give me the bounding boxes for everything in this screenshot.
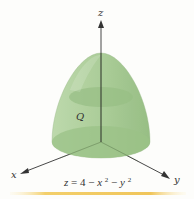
footer-strip [10, 192, 186, 195]
y-axis-arrow-icon [161, 171, 170, 179]
z-axis-arrow-icon [98, 20, 104, 28]
region-label: Q [76, 111, 84, 122]
equation-label: z = 4 − x 2 − y 2 [63, 172, 132, 188]
paraboloid-diagram: z x y Q z = 4 − x 2 − y 2 [0, 0, 194, 199]
diagram-canvas: z x y Q z = 4 − x 2 − y 2 [0, 0, 194, 199]
x-axis-label: x [11, 169, 17, 180]
y-axis-label: y [173, 174, 180, 185]
z-axis-label: z [97, 7, 104, 18]
x-axis-arrow-icon [20, 168, 29, 174]
